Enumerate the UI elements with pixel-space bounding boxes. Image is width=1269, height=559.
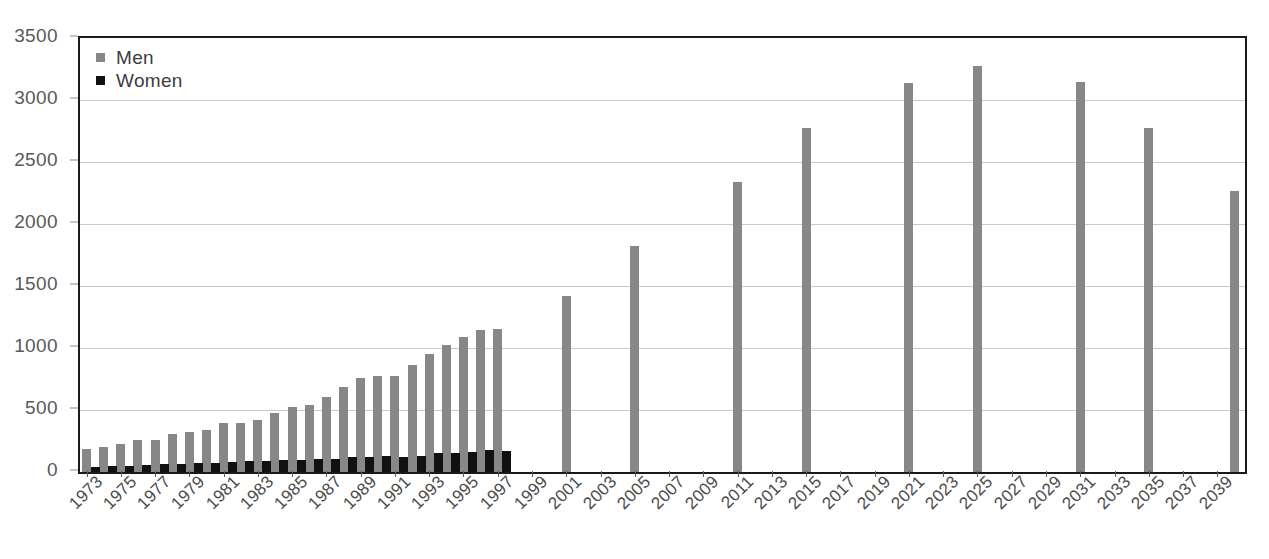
x-axis-tick-label: 2029 [1024, 472, 1066, 514]
legend-label-men: Men [116, 47, 154, 69]
bar-women [417, 456, 426, 472]
y-axis-tick [70, 408, 78, 409]
bar-men [99, 447, 108, 472]
bar-men [356, 378, 365, 472]
y-axis-tick [70, 222, 78, 223]
x-axis-tick-label: 2035 [1127, 472, 1169, 514]
x-axis-tick-label: 2023 [922, 472, 964, 514]
x-axis-tick-label: 1995 [442, 472, 484, 514]
bar-women [382, 456, 391, 472]
y-axis-tick [70, 284, 78, 285]
plot-area [78, 36, 1247, 474]
x-axis-labels: 1973197519771979198119831985198719891991… [78, 472, 1243, 559]
x-axis-tick-label: 1981 [202, 472, 244, 514]
x-axis-tick-label: 1973 [65, 472, 107, 514]
x-axis-tick-label: 2017 [819, 472, 861, 514]
bar-men [202, 430, 211, 472]
bar-men [802, 128, 811, 472]
bar-women [502, 451, 511, 472]
bar-women [331, 459, 340, 472]
bar-men [442, 345, 451, 472]
bar-men [236, 423, 245, 472]
x-axis-tick-label: 1987 [305, 472, 347, 514]
x-axis-tick-label: 1979 [168, 472, 210, 514]
bar-men [904, 83, 913, 472]
y-axis-tick [70, 346, 78, 347]
x-axis-tick-label: 2037 [1161, 472, 1203, 514]
bar-men [425, 354, 434, 472]
bar-men [168, 434, 177, 472]
bar-men [305, 405, 314, 472]
x-axis-tick-label: 1975 [99, 472, 141, 514]
bar-men [373, 376, 382, 472]
bar-men [82, 449, 91, 472]
bar-men [270, 413, 279, 472]
x-axis-tick-label: 1989 [339, 472, 381, 514]
bar-men [219, 423, 228, 472]
x-axis-tick-label: 1985 [271, 472, 313, 514]
x-axis-tick-label: 2003 [579, 472, 621, 514]
bar-women [365, 457, 374, 473]
bar-men [151, 440, 160, 472]
bar-men [973, 66, 982, 472]
y-axis-ticks [0, 36, 78, 470]
bar-men [1076, 82, 1085, 472]
x-axis-tick-label: 1983 [236, 472, 278, 514]
bar-men [322, 397, 331, 472]
x-axis-tick-label: 2021 [887, 472, 929, 514]
bar-men [133, 440, 142, 472]
x-axis-tick-label: 2009 [682, 472, 724, 514]
bar-men [476, 330, 485, 472]
x-axis-tick-label: 2015 [785, 472, 827, 514]
x-axis-tick-label: 2039 [1196, 472, 1238, 514]
bar-women [399, 457, 408, 472]
bar-men [339, 387, 348, 472]
bar-men [1144, 128, 1153, 472]
chart-legend: Men Women [96, 46, 183, 92]
legend-item-women: Women [96, 69, 183, 92]
y-axis-tick [70, 160, 78, 161]
x-axis-tick-label: 1977 [133, 472, 175, 514]
y-axis-tick [70, 98, 78, 99]
bar-men [390, 376, 399, 472]
x-axis-tick-label: 1991 [373, 472, 415, 514]
bar-men [253, 420, 262, 472]
bar-group [80, 38, 1245, 472]
bar-women [451, 453, 460, 472]
x-axis-tick-label: 1993 [408, 472, 450, 514]
x-axis-tick-label: 2011 [717, 472, 758, 513]
legend-swatch-women-icon [96, 76, 105, 85]
bar-men [288, 407, 297, 472]
bar-men [630, 246, 639, 472]
bar-men [408, 365, 417, 472]
bar-men [733, 182, 742, 472]
x-axis-tick-label: 2013 [750, 472, 792, 514]
bar-women [348, 457, 357, 472]
x-axis-tick-label: 2001 [545, 472, 587, 514]
bar-women [434, 453, 443, 472]
bar-men [1230, 191, 1239, 472]
x-axis-tick-label: 2031 [1059, 472, 1101, 514]
bar-men [116, 444, 125, 472]
bar-men [562, 296, 571, 472]
y-axis-tick [70, 36, 78, 37]
y-axis-tick [70, 470, 78, 471]
x-axis-tick-label: 2033 [1093, 472, 1135, 514]
x-axis-tick-label: 2005 [613, 472, 655, 514]
x-axis-tick-label: 2027 [990, 472, 1032, 514]
x-axis-tick-label: 1997 [476, 472, 518, 514]
legend-label-women: Women [116, 70, 183, 92]
x-axis-tick-label: 2019 [853, 472, 895, 514]
bar-men [493, 329, 502, 472]
bar-women [468, 452, 477, 472]
bar-men [185, 432, 194, 472]
bar-chart: 0500100015002000250030003500 19731975197… [0, 0, 1269, 559]
x-axis-tick-label: 2025 [956, 472, 998, 514]
bar-men [459, 337, 468, 472]
x-axis-tick-label: 2007 [647, 472, 689, 514]
x-axis-tick-label: 1999 [510, 472, 552, 514]
bar-women [485, 450, 494, 472]
legend-item-men: Men [96, 46, 183, 69]
legend-swatch-men-icon [96, 53, 105, 62]
